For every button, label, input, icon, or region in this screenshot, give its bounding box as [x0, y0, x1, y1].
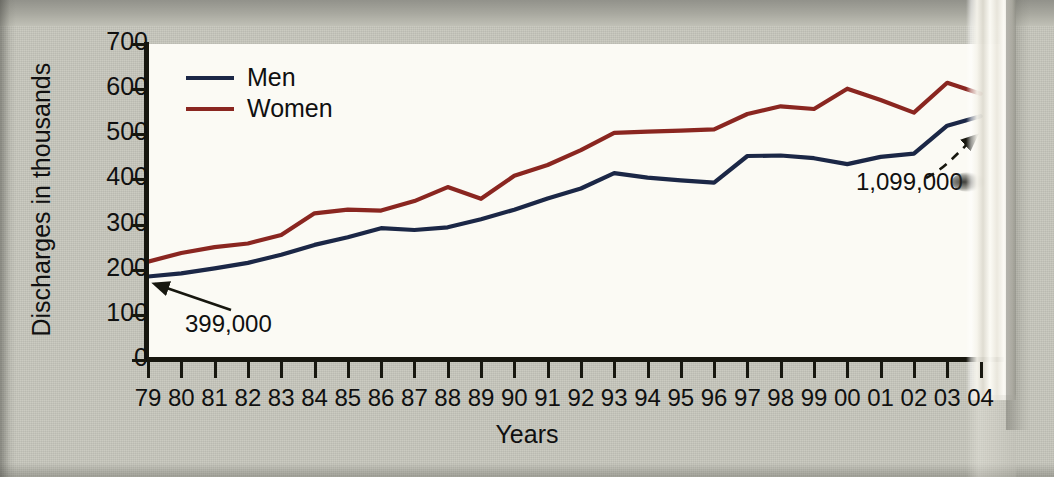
x-tick-mark-88: [447, 362, 450, 378]
x-tick-mark-92: [580, 362, 583, 378]
y-axis-title: Discharges in thousands: [27, 87, 56, 337]
annotation-1099000: 1,099,000: [856, 168, 963, 196]
x-tick-mark-81: [214, 362, 217, 378]
y-tick-label-200: 200: [84, 253, 148, 282]
x-tick-mark-04: [980, 362, 983, 378]
x-tick-mark-85: [347, 362, 350, 378]
legend-item-men: Men: [186, 62, 333, 93]
x-tick-mark-03: [946, 362, 949, 378]
legend-item-women: Women: [186, 93, 333, 124]
y-tick-mark-200: [132, 269, 146, 272]
x-tick-mark-93: [613, 362, 616, 378]
annotation-obscuring-fold-smudge: [952, 172, 986, 192]
bottom-edge-shadow: [0, 463, 1054, 477]
y-tick-mark-400: [132, 178, 146, 181]
y-tick-label-0: 0: [84, 343, 148, 372]
y-tick-mark-100: [132, 314, 146, 317]
legend-swatch-men: [186, 76, 234, 80]
x-tick-mark-83: [280, 362, 283, 378]
y-tick-mark-700: [132, 43, 146, 46]
legend-label-women: Women: [247, 96, 333, 121]
y-tick-mark-0: [132, 359, 146, 362]
y-tick-label-600: 600: [84, 72, 148, 101]
y-tick-label-100: 100: [84, 298, 148, 327]
x-tick-mark-86: [380, 362, 383, 378]
y-tick-mark-600: [132, 88, 146, 91]
x-tick-mark-01: [880, 362, 883, 378]
x-tick-mark-82: [247, 362, 250, 378]
y-tick-label-300: 300: [84, 208, 148, 237]
x-tick-mark-91: [547, 362, 550, 378]
legend-label-men: Men: [247, 65, 296, 90]
y-tick-mark-500: [132, 133, 146, 136]
x-axis-line: [144, 357, 1004, 362]
line-men: [148, 116, 981, 276]
x-tick-mark-00: [846, 362, 849, 378]
x-tick-mark-94: [647, 362, 650, 378]
top-edge-shadow: [0, 0, 1054, 26]
left-edge-shadow: [0, 0, 16, 477]
x-tick-mark-80: [180, 362, 183, 378]
y-tick-mark-300: [132, 224, 146, 227]
x-tick-mark-02: [913, 362, 916, 378]
y-tick-label-500: 500: [84, 117, 148, 146]
x-tick-mark-84: [314, 362, 317, 378]
chart-legend: Men Women: [186, 62, 333, 124]
x-tick-mark-90: [513, 362, 516, 378]
x-tick-mark-89: [480, 362, 483, 378]
x-tick-mark-96: [713, 362, 716, 378]
x-tick-label-04: 04: [959, 384, 1003, 412]
x-tick-mark-99: [813, 362, 816, 378]
x-tick-mark-79: [147, 362, 150, 378]
y-tick-label-700: 700: [84, 27, 148, 56]
x-axis-title: Years: [0, 420, 1054, 449]
x-tick-mark-97: [746, 362, 749, 378]
legend-swatch-women: [186, 107, 234, 111]
x-tick-mark-87: [413, 362, 416, 378]
annotation-399000: 399,000: [185, 310, 272, 338]
x-tick-mark-95: [680, 362, 683, 378]
y-tick-label-400: 400: [84, 162, 148, 191]
x-tick-mark-98: [780, 362, 783, 378]
scanned-chart-page: 7006005004003002001000 Discharges in tho…: [0, 0, 1054, 477]
